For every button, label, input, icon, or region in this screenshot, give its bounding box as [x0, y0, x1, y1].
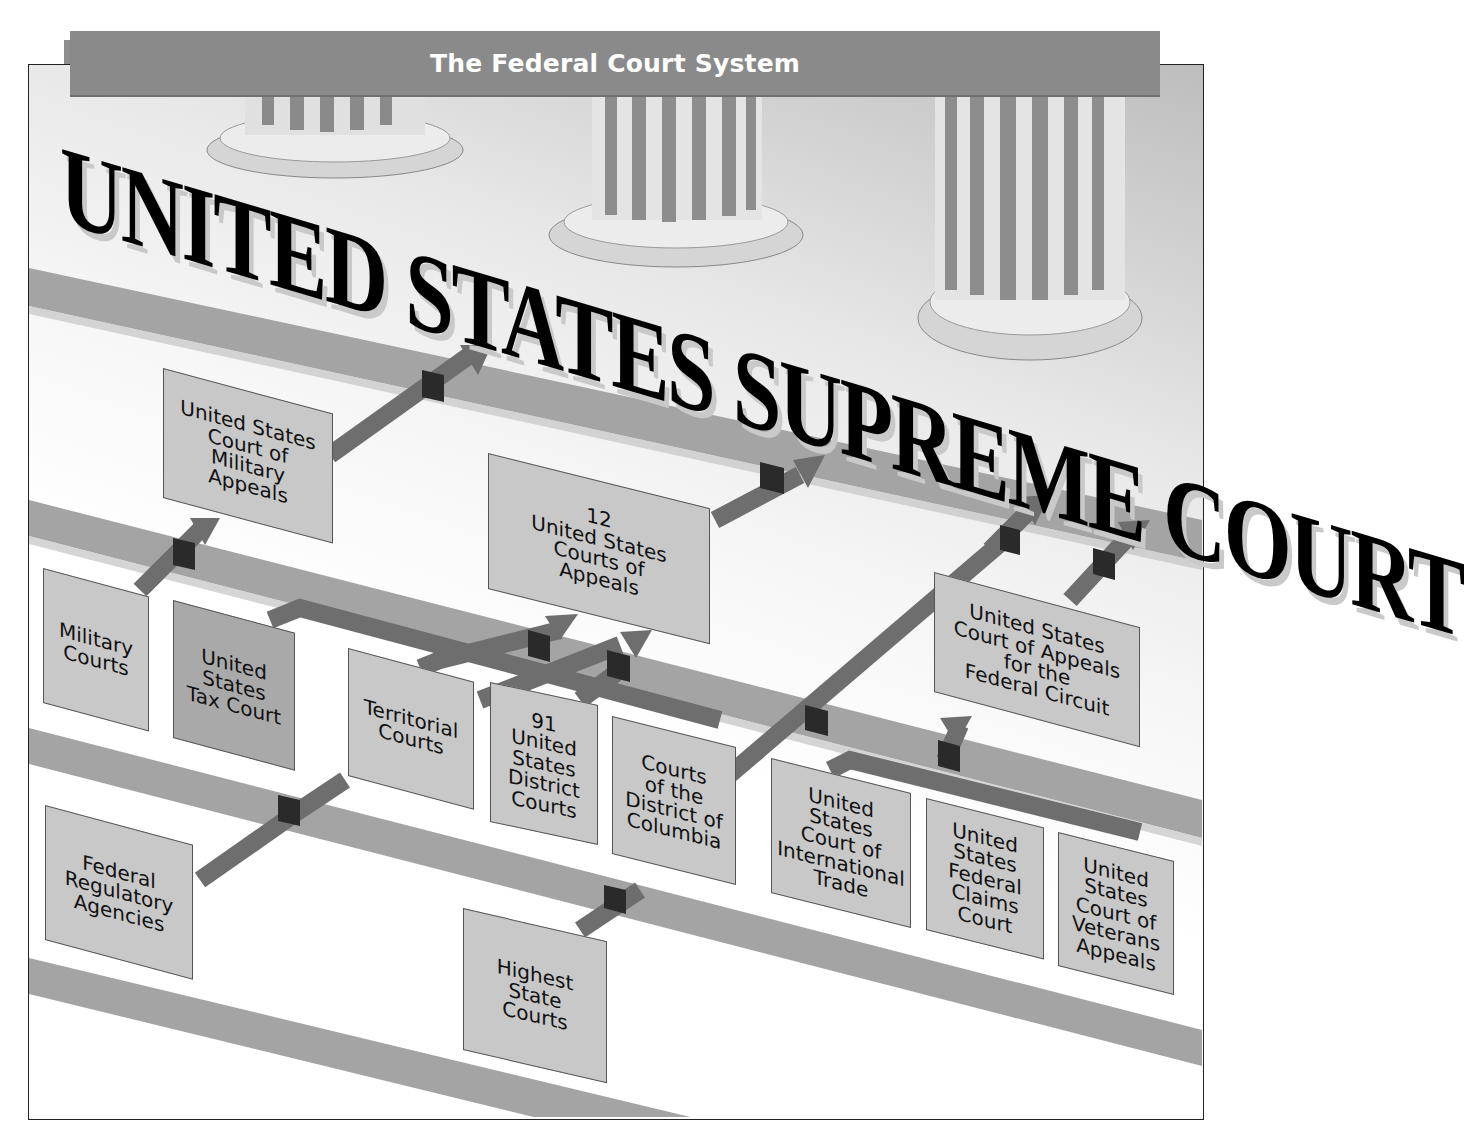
page-title: The Federal Court System	[430, 49, 800, 78]
node-label: 91 United States District Courts	[508, 705, 580, 822]
node-label: United States Court of Appeals for the F…	[954, 597, 1121, 723]
title-bar: The Federal Court System	[70, 31, 1160, 95]
node-military-courts: Military Courts	[43, 568, 149, 731]
node-label: United States Court of Veterans Appeals	[1072, 851, 1160, 975]
node-label: United States Court of International Tra…	[777, 776, 905, 910]
column-right-icon	[918, 70, 1142, 360]
node-label: Highest State Courts	[497, 956, 574, 1035]
node-label: Territorial Courts	[364, 696, 458, 762]
column-middle-icon	[549, 70, 803, 267]
node-label: United States Federal Claims Court	[948, 819, 1022, 939]
node-label: Federal Regulatory Agencies	[65, 847, 174, 937]
node-label: United States Tax Court	[187, 642, 281, 728]
node-district-courts: 91 United States District Courts	[490, 682, 598, 845]
node-veterans-appeals: United States Court of Veterans Appeals	[1058, 832, 1174, 995]
node-label: Military Courts	[59, 619, 133, 680]
node-label: Courts of the District of Columbia	[625, 748, 722, 854]
node-label: 12 United States Courts of Appeals	[531, 491, 666, 606]
node-label: United States Court of Military Appeals	[180, 397, 315, 515]
